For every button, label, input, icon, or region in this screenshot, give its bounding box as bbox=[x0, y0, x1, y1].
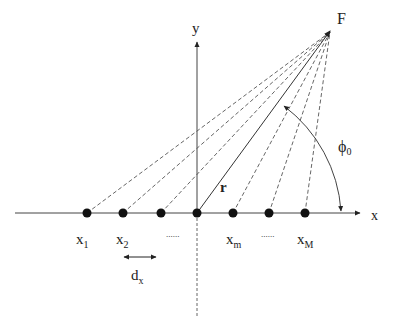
element-6 bbox=[265, 209, 274, 218]
element-m bbox=[229, 209, 238, 218]
angle-label: ϕ0 bbox=[338, 138, 351, 157]
x-axis-label: x bbox=[371, 208, 378, 223]
label-x2: x2 bbox=[116, 231, 129, 250]
y-axis-label: y bbox=[192, 20, 200, 36]
ellipsis-left: ...... bbox=[166, 229, 180, 239]
label-xM: xM bbox=[297, 231, 314, 250]
ellipsis-right: ...... bbox=[261, 229, 275, 239]
element-1 bbox=[83, 209, 92, 218]
r-vector bbox=[197, 31, 330, 213]
spacing-label: dx bbox=[131, 267, 144, 286]
element-3 bbox=[157, 209, 166, 218]
r-label: r bbox=[220, 179, 227, 195]
array-geometry-diagram: x y r F ϕ0 x1 x2 ...... xm ...... xM dx bbox=[0, 0, 394, 336]
label-x1: x1 bbox=[76, 231, 89, 250]
rays bbox=[87, 32, 330, 213]
element-M bbox=[301, 209, 310, 218]
element-origin bbox=[193, 209, 202, 218]
focus-label: F bbox=[337, 10, 346, 27]
element-2 bbox=[119, 209, 128, 218]
label-xm: xm bbox=[226, 231, 242, 250]
